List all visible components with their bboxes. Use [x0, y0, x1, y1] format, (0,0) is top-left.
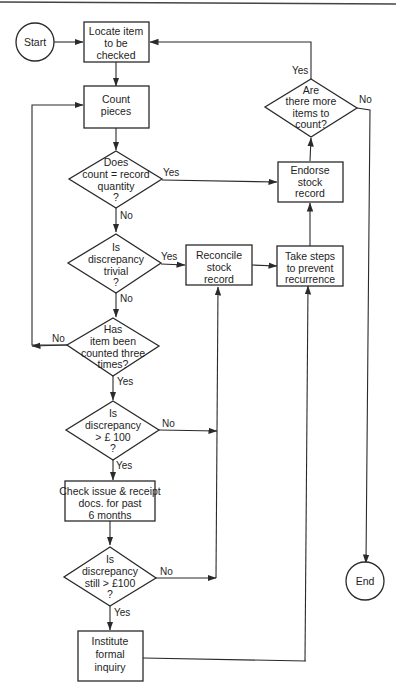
svg-text:pieces: pieces: [101, 105, 131, 117]
label-still-no: No: [160, 566, 173, 577]
edge-more-no-end: [357, 108, 370, 563]
svg-text:stock: stock: [207, 261, 232, 273]
svg-text:recurrence: recurrence: [285, 273, 335, 285]
svg-text:discrepancy: discrepancy: [82, 565, 139, 577]
edge-inquiry-prevent: [305, 286, 308, 661]
svg-text:there more: there more: [286, 95, 337, 107]
svg-text:times?: times?: [98, 358, 129, 370]
svg-text:Is: Is: [106, 553, 114, 565]
edge-more-yes-locate: [150, 42, 311, 79]
svg-text:Has: Has: [104, 323, 123, 335]
label-trivial-yes: Yes: [161, 251, 177, 262]
decision-over-100: Is discrepancy > £ 100 ?: [66, 401, 159, 460]
svg-text:Start: Start: [24, 36, 46, 48]
start-terminal: Start: [16, 23, 54, 61]
svg-text:Is: Is: [109, 407, 117, 419]
endorse-stock-process: Endorse stock record: [278, 162, 343, 202]
svg-text:docs. for past: docs. for past: [78, 497, 141, 509]
label-three-yes: Yes: [117, 376, 133, 387]
svg-text:discrepancy: discrepancy: [88, 253, 145, 265]
decision-still-over-100: Is discrepancy still > £100 ?: [64, 547, 156, 606]
svg-text:count = record: count = record: [82, 168, 150, 180]
svg-text:Take steps: Take steps: [285, 250, 335, 262]
top-rule: [0, 2, 396, 4]
svg-text:Institute: Institute: [92, 635, 129, 647]
edge-three-no-count: [32, 105, 83, 345]
svg-text:to be: to be: [104, 37, 128, 49]
svg-text:inquiry: inquiry: [95, 661, 127, 673]
svg-text:checked: checked: [96, 49, 135, 61]
count-pieces-process: Count pieces: [84, 86, 149, 128]
decision-count-match: Does count = record quantity ?: [69, 151, 162, 208]
svg-text:item been: item been: [90, 335, 136, 347]
svg-text:Reconcile: Reconcile: [196, 249, 242, 261]
label-match-no: No: [120, 210, 133, 221]
svg-text:discrepancy: discrepancy: [85, 419, 142, 431]
svg-text:record: record: [204, 273, 234, 285]
label-more-yes: Yes: [292, 65, 308, 76]
edge-match-yes-endorse: [162, 180, 277, 182]
svg-text:?: ?: [110, 442, 116, 454]
edge-inquiry-h: [143, 658, 306, 661]
svg-text:?: ?: [113, 191, 119, 203]
svg-text:formal: formal: [95, 648, 124, 660]
svg-text:Check issue & receipt: Check issue & receipt: [59, 485, 161, 497]
end-terminal: End: [346, 562, 384, 600]
svg-text:6 months: 6 months: [88, 509, 131, 521]
label-over100-no: No: [162, 418, 175, 429]
prevent-recurrence-process: Take steps to prevent recurrence: [277, 246, 343, 286]
edge-over100-no: [159, 430, 217, 431]
edge-endorse-more: [310, 138, 311, 161]
edge-trivial-yes-reconcile: [161, 264, 185, 265]
svg-text:count?: count?: [295, 118, 327, 130]
label-more-no: No: [359, 94, 372, 105]
label-match-yes: Yes: [163, 167, 179, 178]
label-over100-yes: Yes: [116, 460, 132, 471]
flowchart-canvas: Start Locate item to be checked Count pi…: [0, 0, 405, 689]
decision-more-items: Are there more items to count?: [265, 79, 357, 137]
reconcile-stock-process: Reconcile stock record: [186, 245, 252, 285]
svg-text:Locate item: Locate item: [89, 25, 144, 37]
decision-trivial: Is discrepancy trivial ?: [68, 234, 161, 293]
svg-text:Endorse: Endorse: [290, 164, 329, 176]
svg-text:record: record: [295, 187, 325, 199]
label-still-yes: Yes: [114, 607, 130, 618]
svg-text:Does: Does: [104, 156, 129, 168]
svg-text:Count: Count: [102, 93, 130, 105]
label-trivial-no: No: [120, 293, 133, 304]
check-docs-process: Check issue & receipt docs. for past 6 m…: [59, 481, 161, 521]
svg-text:?: ?: [107, 588, 113, 600]
svg-text:End: End: [356, 575, 375, 587]
locate-item-process: Locate item to be checked: [84, 22, 149, 62]
edge-reconcile-prevent: [252, 265, 277, 266]
label-three-no: No: [52, 333, 65, 344]
svg-text:?: ?: [113, 276, 119, 288]
edge-collector-reconcile: [216, 287, 218, 578]
formal-inquiry-process: Institute formal inquiry: [78, 631, 143, 681]
svg-text:Is: Is: [112, 241, 120, 253]
decision-counted-three-times: Has item been counted three times?: [67, 318, 159, 376]
